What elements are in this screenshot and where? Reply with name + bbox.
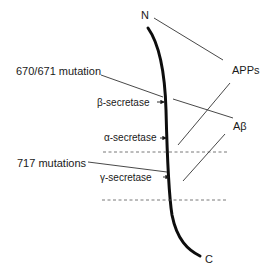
mutation-670-671-label: 670/671 mutation <box>16 66 101 77</box>
abeta-lower-line <box>183 134 225 181</box>
n-terminus-label: N <box>141 10 149 21</box>
mutation-717-pointer <box>88 162 167 172</box>
c-terminus-label: C <box>205 254 213 265</box>
mutation-670-pointer <box>101 75 163 97</box>
alpha-secretase-label: α-secretase <box>104 133 156 143</box>
gamma-secretase-label: γ-secretase <box>100 173 152 183</box>
beta-secretase-label: β-secretase <box>97 98 149 108</box>
apps-label: APPs <box>232 65 260 76</box>
mutation-717-label: 717 mutations <box>17 158 86 169</box>
abeta-label: Aβ <box>233 121 247 132</box>
apps-lower-line <box>178 83 230 145</box>
n-to-apps-line <box>154 18 223 60</box>
